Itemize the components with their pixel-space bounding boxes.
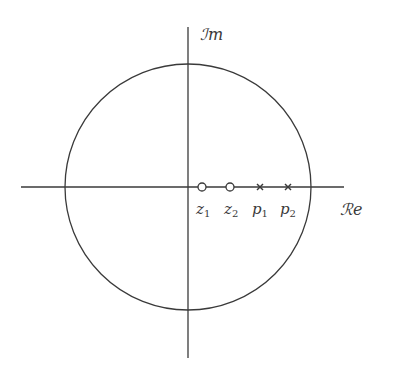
zero-label-2: z2	[223, 200, 238, 219]
real-axis-label: ℛe	[340, 200, 362, 219]
pole-label-2: p2	[280, 200, 296, 219]
zero-label-1: z1	[195, 200, 210, 219]
pole-label-1: p1	[252, 200, 268, 219]
zero-marker-1	[198, 183, 206, 191]
pole-zero-diagram: ℐm ℛe z1 z2 p1 p2	[0, 0, 393, 373]
imag-axis-label: ℐm	[200, 25, 223, 44]
zero-marker-2	[226, 183, 234, 191]
